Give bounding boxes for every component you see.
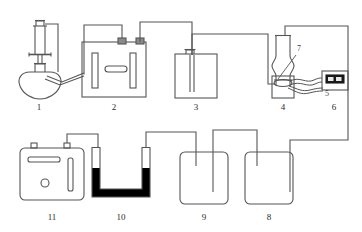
label-item-3: 3	[194, 102, 199, 112]
label-item-10: 10	[117, 212, 127, 222]
diagram-canvas: 1 2 3 4 5 6 7 8 9 10 11	[0, 0, 362, 232]
component-3-washing-bottle	[175, 50, 217, 99]
component-1-flask-assembly	[19, 21, 84, 100]
bottle3-neck	[186, 50, 194, 54]
box11-round-port	[41, 179, 49, 187]
component-9-washing-bottle	[180, 140, 228, 204]
tubing-upper	[290, 78, 322, 81]
flask-body	[19, 72, 61, 99]
component-5-flexible-tubing	[288, 78, 323, 94]
label-item-7: 7	[297, 44, 301, 53]
component-2-electrolysis-cell	[82, 38, 146, 97]
tube-11-to-10	[67, 134, 98, 148]
tube-9-to-8	[213, 130, 257, 152]
box11-terminal-right	[64, 143, 70, 148]
funnel-barrel	[35, 26, 45, 54]
label-item-6: 6	[332, 102, 337, 112]
component-10-u-tube	[92, 148, 151, 198]
meter-display-segment-right	[336, 77, 342, 81]
flask-neck	[35, 64, 45, 72]
cell-terminal-left	[118, 38, 126, 44]
u-tube-packing	[92, 168, 150, 197]
box11-terminal-left	[31, 143, 37, 148]
label-item-5: 5	[325, 89, 329, 98]
funnel-stopper	[36, 21, 44, 26]
tube-2-to-3	[140, 22, 192, 55]
tube-10-to-9	[146, 132, 196, 152]
apparatus-diagram: 1 2 3 4 5 6 7 8 9 10 11	[0, 0, 362, 232]
bottle9-body	[180, 152, 228, 204]
label-item-8: 8	[267, 212, 272, 222]
component-8-washing-bottle	[245, 152, 293, 204]
meter-display-segment-left	[328, 77, 334, 81]
bottle3-body	[175, 54, 217, 98]
label-item-9: 9	[202, 212, 207, 222]
label-item-2: 2	[112, 102, 117, 112]
tube-path-10-9	[146, 132, 196, 152]
tube-1-to-2	[84, 25, 122, 75]
label-item-4: 4	[281, 102, 286, 112]
box11-body	[20, 148, 84, 200]
bottle8-body	[245, 152, 293, 204]
label-item-1: 1	[37, 102, 42, 112]
component-6-meter	[322, 71, 348, 90]
u-tube-inner-wall	[100, 148, 142, 189]
pointer-7-leader	[278, 55, 296, 79]
component-4-reaction-tube	[272, 36, 296, 99]
tube-path-11-10	[67, 134, 98, 148]
tube-path-3-4	[192, 34, 268, 55]
tube-path-1-2	[84, 25, 122, 75]
cell-electrode-right	[130, 53, 136, 88]
box11-horizontal-slot	[28, 157, 60, 162]
cell-center-element	[105, 66, 127, 72]
label-item-11: 11	[48, 212, 57, 222]
tube-path-9-8	[213, 130, 257, 152]
tube-path-2-3	[140, 22, 192, 55]
bottle3-inlet-tube	[190, 55, 194, 92]
reactor-septum	[274, 80, 292, 87]
box11-vertical-slot	[68, 158, 73, 191]
reactor-wall-left	[272, 36, 276, 86]
tube-3-to-4	[192, 34, 268, 55]
funnel-stem	[38, 55, 42, 63]
tubing-upper-inner	[290, 82, 322, 85]
component-11-instrument-box	[20, 143, 84, 200]
funnel-side-bracket	[45, 24, 58, 72]
cell-electrode-left	[92, 53, 98, 88]
